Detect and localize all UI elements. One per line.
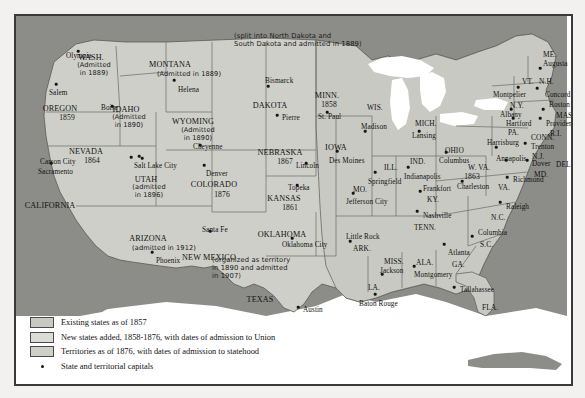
capital-dot <box>374 293 377 296</box>
capital-dot <box>130 156 133 159</box>
map-label-kansas-yr: 1861 <box>282 204 298 212</box>
map-label-atlanta: Atlanta <box>448 250 470 257</box>
capital-dot <box>539 117 542 120</box>
capital-dot <box>374 171 377 174</box>
capital-dot <box>291 237 294 240</box>
map-label-del: DEL. <box>556 161 571 169</box>
map-label-wyoming-adm: (Admitted in 1890) <box>181 127 215 142</box>
legend-capital-dot <box>41 365 44 368</box>
map-label-dakota: DAKOTA <box>253 102 288 110</box>
capital-dot <box>276 114 279 117</box>
map-label-jefferson: Jefferson City <box>346 199 388 206</box>
map-label-lincoln: Lincoln <box>296 163 319 170</box>
legend-row-new-states: New states added, 1858-1876, with dates … <box>24 331 354 344</box>
map-label-ark: ARK. <box>353 245 371 253</box>
map-label-columbus: Columbus <box>439 158 469 165</box>
map-label-carson-city: Carson City <box>40 159 76 166</box>
map-label-ga: GA. <box>452 261 465 269</box>
legend-row-capitals: State and territorial capitals <box>24 360 354 373</box>
map-label-minn-yr: 1858 <box>321 101 337 109</box>
map-label-nashville: Nashville <box>423 213 451 220</box>
capital-dot <box>141 157 144 160</box>
capital-dot <box>305 162 308 165</box>
map-label-st-paul: St. Paul <box>318 114 341 121</box>
capital-dot <box>445 151 448 154</box>
capital-dot <box>50 162 53 165</box>
map-label-salem: Salem <box>49 90 67 97</box>
map-label-nh: N.H. <box>539 78 554 86</box>
map-label-des-moines: Des Moines <box>329 158 365 165</box>
map-note-oklahoma-note: (organized as territory in 1890 and admi… <box>212 256 290 280</box>
capital-dot <box>536 87 539 90</box>
capital-dot <box>326 111 329 114</box>
map-label-frankfort: Frankfort <box>423 186 451 193</box>
capital-dot <box>407 166 410 169</box>
legend-label-territories: Territories as of 1876, with dates of ad… <box>61 347 259 356</box>
map-label-tallahassee: Tallahassee <box>460 287 494 294</box>
map-label-sacramento: Sacramento <box>38 169 73 176</box>
legend-label-new-states: New states added, 1858-1876, with dates … <box>61 333 275 342</box>
map-label-harrisburg: Harrisburg <box>487 140 519 147</box>
map-label-ohio: OHIO <box>445 147 464 155</box>
map-label-denver: Denver <box>206 171 228 178</box>
map-label-montpelier: Montpelier <box>493 92 526 99</box>
map-label-jackson: Jackson <box>380 268 403 275</box>
map-label-phoenix: Phoenix <box>156 258 180 265</box>
map-label-la: LA. <box>368 284 380 292</box>
map-label-texas: TEXAS <box>247 296 274 304</box>
capital-dot <box>495 146 498 149</box>
capital-dot <box>499 201 502 204</box>
map-label-mich: MICH. <box>415 120 437 128</box>
map-label-montana-adm: (Admitted in 1889) <box>157 71 221 79</box>
capital-dot <box>524 142 527 145</box>
capital-dot <box>413 265 416 268</box>
map-label-wva-yr: 1863 <box>464 173 480 181</box>
legend-row-existing-states: Existing states as of 1857 <box>24 316 354 329</box>
map-label-oklahoma-city: Oklahoma City <box>282 242 327 249</box>
map-label-md: MD. <box>534 171 548 179</box>
map-label-nebraska-yr: 1867 <box>277 158 293 166</box>
map-label-wash-adm: (Admitted in 1889) <box>77 62 111 77</box>
map-label-arizona-adm: (admitted in 1912) <box>132 245 196 253</box>
capital-dot <box>512 117 515 120</box>
capital-dot <box>352 192 355 195</box>
capital-dot <box>151 251 154 254</box>
map-label-arizona: ARIZONA <box>129 235 167 243</box>
capital-dot <box>539 67 542 70</box>
map-label-ala: ALA. <box>416 259 433 267</box>
map-label-oklahoma: OKLAHOMA <box>258 231 307 239</box>
map-label-indianapolis: Indianapolis <box>404 174 441 181</box>
legend-row-territories: Territories as of 1876, with dates of ad… <box>24 345 354 358</box>
map-label-concord: Concord <box>545 92 570 99</box>
capital-dot <box>517 86 520 89</box>
map-label-pa: PA. <box>508 129 519 137</box>
map-label-wva: W. VA. <box>468 164 490 172</box>
capital-dot <box>267 85 270 88</box>
map-label-raleigh: Raleigh <box>506 204 529 211</box>
map-label-springfield: Springfield <box>368 179 401 186</box>
map-label-ind: IND. <box>410 158 425 166</box>
capital-dot <box>209 230 212 233</box>
map-label-ky: KY. <box>427 196 439 204</box>
capital-dot <box>471 235 474 238</box>
map-label-pierre: Pierre <box>282 115 300 122</box>
capital-dot <box>461 180 464 183</box>
capital-dot <box>203 164 206 167</box>
capital-dot <box>349 240 352 243</box>
capital-dot <box>510 108 513 111</box>
map-label-wis: WIS. <box>367 104 383 112</box>
map-label-colorado: COLORADO <box>191 181 237 189</box>
map-label-va: VA. <box>498 184 510 192</box>
map-label-idaho-adm: (Admitted in 1890) <box>112 114 146 129</box>
map-label-montana: MONTANA <box>149 61 191 69</box>
map-label-austin: Austin <box>303 307 323 314</box>
legend-swatch-new-states <box>30 332 54 343</box>
capital-dot <box>443 243 446 246</box>
map-label-colorado-yr: 1876 <box>214 191 230 199</box>
map-label-california: CALIFORNIA <box>25 202 76 210</box>
map-canvas: WASH.(Admitted in 1889)OlympiaSalemOREGO… <box>16 16 571 384</box>
capital-dot <box>199 144 202 147</box>
legend-label-existing-states: Existing states as of 1857 <box>61 318 147 327</box>
map-label-baton-rouge: Baton Rouge <box>359 301 398 308</box>
map-label-topeka: Topeka <box>288 185 310 192</box>
